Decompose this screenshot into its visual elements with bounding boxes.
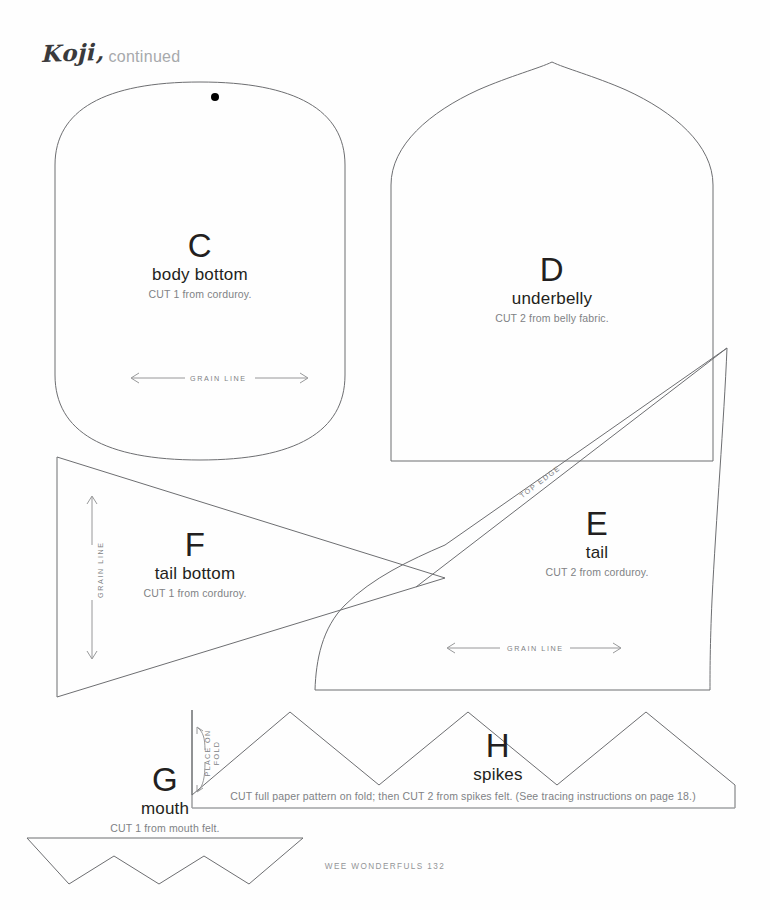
piece-h-cut-line: CUT full paper pattern on fold; then CUT… bbox=[198, 788, 728, 804]
piece-g-label: G mouth CUT 1 from mouth felt. bbox=[65, 762, 265, 836]
piece-d-name: underbelly bbox=[452, 288, 652, 310]
piece-c-cut: CUT 1 from corduroy. bbox=[100, 286, 300, 302]
piece-e-name: tail bbox=[512, 542, 682, 564]
piece-c-name: body bottom bbox=[100, 264, 300, 286]
piece-d-cut: CUT 2 from belly fabric. bbox=[452, 310, 652, 326]
piece-f-label: F tail bottom CUT 1 from corduroy. bbox=[95, 527, 295, 601]
piece-f-name: tail bottom bbox=[95, 563, 295, 585]
piece-c-letter: C bbox=[100, 228, 300, 264]
pattern-page: Koji, continued bbox=[0, 0, 770, 910]
piece-f-letter: F bbox=[95, 527, 295, 563]
piece-c-grain-label: GRAIN LINE bbox=[190, 374, 247, 383]
piece-h-cut: CUT full paper pattern on fold; then CUT… bbox=[198, 788, 728, 804]
piece-g-outline bbox=[27, 838, 303, 884]
page-footer: WEE WONDERFULS 132 bbox=[0, 862, 770, 871]
piece-h-letter: H bbox=[398, 728, 598, 764]
piece-c-dot-marker bbox=[211, 93, 219, 101]
piece-f-cut: CUT 1 from corduroy. bbox=[95, 585, 295, 601]
piece-e-grain-label: GRAIN LINE bbox=[507, 644, 564, 653]
piece-h-name: spikes bbox=[398, 764, 598, 786]
piece-g-letter: G bbox=[65, 762, 265, 798]
piece-g-cut: CUT 1 from mouth felt. bbox=[65, 820, 265, 836]
piece-e-cut: CUT 2 from corduroy. bbox=[512, 564, 682, 580]
piece-e-label: E tail CUT 2 from corduroy. bbox=[512, 506, 682, 580]
piece-d-label: D underbelly CUT 2 from belly fabric. bbox=[452, 252, 652, 326]
piece-c-label: C body bottom CUT 1 from corduroy. bbox=[100, 228, 300, 302]
piece-g-name: mouth bbox=[65, 798, 265, 820]
piece-d-letter: D bbox=[452, 252, 652, 288]
piece-h-label: H spikes bbox=[398, 728, 598, 786]
piece-f-grain-label: GRAIN LINE bbox=[96, 541, 105, 598]
piece-e-letter: E bbox=[512, 506, 682, 542]
